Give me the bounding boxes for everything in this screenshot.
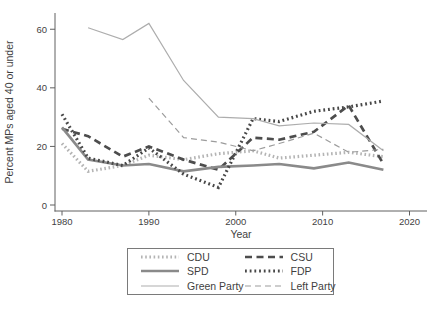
series-line-green-party: [88, 23, 383, 150]
legend-line-sample-cdu: [140, 252, 180, 262]
y-tick-label-20: 20: [36, 141, 47, 152]
x-tick-label-1980: 1980: [51, 216, 72, 227]
legend-item-green-party: Green Party: [140, 279, 244, 293]
legend-line-sample-green-party: [140, 281, 180, 291]
series-line-csu: [62, 105, 383, 169]
legend-item-fdp: FDP: [244, 264, 336, 278]
legend-label-fdp: FDP: [291, 265, 312, 277]
legend-label-csu: CSU: [291, 251, 313, 263]
y-axis-title: Percent MPs aged 40 or under: [3, 40, 15, 184]
x-tick-label-2020: 2020: [399, 216, 420, 227]
figure: 020406019801990200020102020YearPercent M…: [0, 0, 440, 315]
legend-item-left-party: Left Party: [244, 279, 336, 293]
x-tick-label-2000: 2000: [225, 216, 246, 227]
legend-line-sample-fdp: [244, 266, 284, 276]
x-tick-label-1990: 1990: [138, 216, 159, 227]
x-tick-label-2010: 2010: [312, 216, 333, 227]
legend-line-sample-spd: [140, 266, 180, 276]
legend: CDUCSUSPDFDPGreen PartyLeft Party: [127, 248, 334, 295]
y-tick-label-0: 0: [42, 200, 47, 211]
legend-item-csu: CSU: [244, 250, 336, 264]
legend-item-spd: SPD: [140, 264, 244, 278]
y-tick-label-40: 40: [36, 82, 47, 93]
legend-label-spd: SPD: [187, 265, 209, 277]
y-tick-label-60: 60: [36, 24, 47, 35]
legend-line-sample-left-party: [244, 281, 284, 291]
legend-item-cdu: CDU: [140, 250, 244, 264]
legend-label-cdu: CDU: [187, 251, 210, 263]
legend-label-left-party: Left Party: [291, 280, 336, 292]
x-axis-title: Year: [230, 228, 252, 240]
legend-line-sample-csu: [244, 252, 284, 262]
legend-label-green-party: Green Party: [187, 280, 244, 292]
